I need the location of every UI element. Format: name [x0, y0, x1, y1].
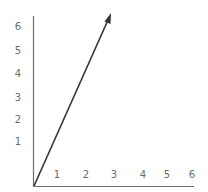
x-tick-1: 1	[54, 170, 60, 180]
y-tick-3: 3	[15, 93, 21, 103]
y-tick-5: 5	[15, 46, 21, 56]
x-tick-5: 5	[164, 170, 170, 180]
x-tick-2: 2	[83, 170, 89, 180]
x-tick-6: 6	[189, 170, 195, 180]
arrowhead-icon	[105, 13, 112, 24]
vector-diagram	[0, 0, 208, 192]
y-tick-6: 6	[15, 22, 21, 32]
vector-line	[34, 20, 108, 186]
y-tick-1: 1	[15, 137, 21, 147]
y-tick-2: 2	[15, 115, 21, 125]
y-tick-4: 4	[15, 69, 21, 79]
x-tick-4: 4	[140, 170, 146, 180]
x-tick-3: 3	[111, 170, 117, 180]
